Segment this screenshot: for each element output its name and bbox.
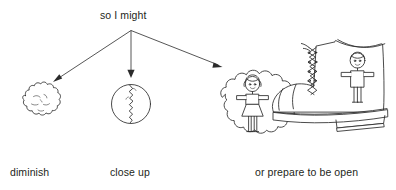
arrow-group xyxy=(53,31,223,83)
label-prepare-to-be-open: or prepare to be open xyxy=(255,167,358,178)
diagram-canvas: so I might diminish close up or prepare … xyxy=(0,0,396,190)
crumpled-ball-illustration xyxy=(23,82,61,115)
label-close-up: close up xyxy=(110,167,150,178)
arrow-to-diminish xyxy=(53,31,131,83)
label-diminish: diminish xyxy=(10,167,49,178)
arrow-to-prepare-open xyxy=(131,31,223,68)
boot-illustration xyxy=(272,40,387,132)
diagram-artwork xyxy=(0,0,396,190)
diagram-heading: so I might xyxy=(100,10,147,21)
cracked-circle-illustration xyxy=(112,85,151,124)
arrow-to-close-up xyxy=(127,31,134,79)
